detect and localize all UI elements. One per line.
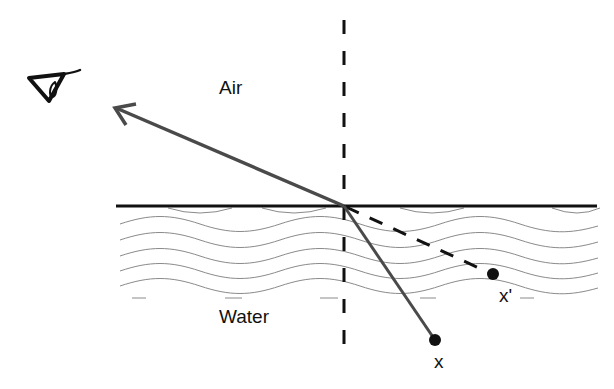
object-label: x	[434, 351, 444, 372]
apparent-object-point	[487, 268, 499, 280]
refraction-diagram: Air Water x x'	[0, 0, 614, 389]
object-point	[429, 334, 441, 346]
air-label: Air	[219, 77, 243, 98]
refracted-ray-water	[344, 206, 435, 340]
ray-air	[116, 108, 344, 206]
apparent-object-label: x'	[499, 285, 512, 306]
water-label: Water	[219, 306, 270, 327]
eye-icon	[29, 70, 80, 101]
water-waves	[120, 208, 600, 298]
